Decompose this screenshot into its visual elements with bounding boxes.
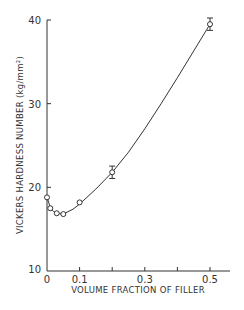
- data-point-marker: [77, 200, 82, 205]
- y-axis-title: VICKERS HARDNESS NUMBER (kg/mm²): [15, 56, 25, 234]
- x-tick-label: 0: [44, 274, 50, 285]
- x-ticks: 00.10.30.5: [44, 267, 218, 285]
- y-tick-label: 30: [28, 99, 41, 110]
- y-tick-label: 20: [28, 182, 41, 193]
- axes: [47, 20, 230, 271]
- data-point-marker: [110, 170, 115, 175]
- x-axis-title: VOLUME FRACTION OF FILLER: [71, 285, 205, 295]
- hardness-chart: 10203040 00.10.30.5 VOLUME FRACTION OF F…: [0, 0, 244, 310]
- x-tick-label: 0.5: [202, 274, 218, 285]
- y-ticks: 10203040: [28, 15, 51, 275]
- data-point-marker: [61, 212, 66, 217]
- data-markers: [45, 18, 214, 217]
- fit-curve: [47, 24, 210, 214]
- y-tick-label: 40: [28, 15, 41, 26]
- data-point-marker: [48, 206, 53, 211]
- data-point-marker: [45, 195, 50, 200]
- x-tick-label: 0.3: [137, 274, 153, 285]
- x-tick-label: 0.1: [72, 274, 88, 285]
- data-point-marker: [54, 211, 59, 216]
- data-point-marker: [208, 22, 213, 27]
- y-tick-label: 10: [28, 264, 41, 275]
